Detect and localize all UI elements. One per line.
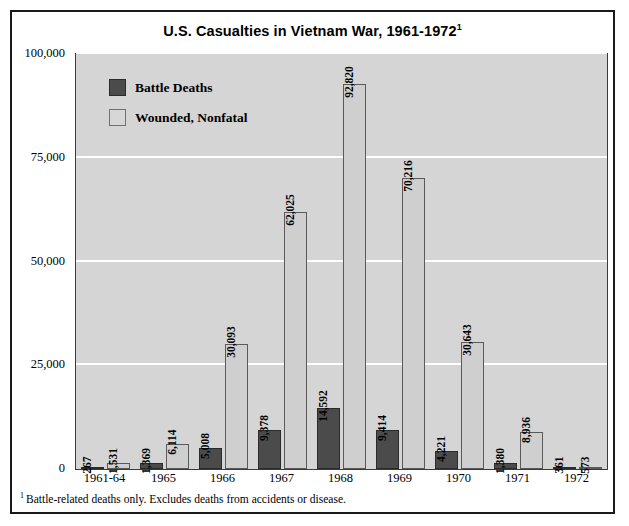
bar-value-label: 62,025 xyxy=(284,194,296,226)
bar-group: 9,37862,025 xyxy=(258,54,307,469)
bar-value-label: 30,093 xyxy=(225,326,237,358)
wounded-nonfatal-swatch-icon xyxy=(109,109,126,126)
bar-wounded-nonfatal[interactable]: 92,820 xyxy=(343,84,366,469)
x-axis-tick-label: 1968 xyxy=(328,471,353,486)
y-axis: 025,00050,00075,000100,000 xyxy=(12,53,73,468)
bar-wounded-nonfatal[interactable]: 30,093 xyxy=(225,344,248,469)
x-axis-tick-label: 1961-64 xyxy=(84,471,126,486)
bar-value-label: 8,936 xyxy=(520,417,532,443)
y-axis-tick-label: 75,000 xyxy=(7,149,73,164)
chart-title: U.S. Casualties in Vietnam War, 1961-197… xyxy=(12,22,613,39)
bar-battle-deaths[interactable]: 267 xyxy=(81,467,104,469)
bar-value-label: 70,216 xyxy=(402,160,414,192)
bar-value-label: 5,008 xyxy=(199,433,211,459)
bar-value-label: 9,414 xyxy=(376,415,388,441)
x-axis-tick-label: 1966 xyxy=(210,471,235,486)
legend-item-wounded-nonfatal: Wounded, Nonfatal xyxy=(109,109,248,126)
footnote-text: Battle-related deaths only. Excludes dea… xyxy=(26,493,346,505)
x-axis-tick-label: 1971 xyxy=(505,471,530,486)
bar-battle-deaths[interactable]: 5,008 xyxy=(199,448,222,469)
bar-battle-deaths[interactable]: 361 xyxy=(553,467,576,469)
chart-figure: U.S. Casualties in Vietnam War, 1961-197… xyxy=(10,10,615,514)
y-axis-tick-label: 100,000 xyxy=(7,46,73,61)
x-axis-tick-label: 1972 xyxy=(564,471,589,486)
bar-value-label: 14,592 xyxy=(317,391,329,423)
chart-title-text: U.S. Casualties in Vietnam War, 1961-197… xyxy=(163,23,456,39)
x-axis-tick-label: 1965 xyxy=(151,471,176,486)
battle-deaths-swatch-icon xyxy=(109,79,126,96)
footnote-marker: 1 xyxy=(20,491,24,500)
legend-item-battle-deaths: Battle Deaths xyxy=(109,79,248,96)
x-axis-tick-label: 1970 xyxy=(446,471,471,486)
bar-battle-deaths[interactable]: 1,369 xyxy=(140,463,163,469)
bar-group: 4,22130,643 xyxy=(435,54,484,469)
bar-battle-deaths[interactable]: 1,380 xyxy=(494,463,517,469)
bar-value-label: 30,643 xyxy=(461,324,473,356)
bar-wounded-nonfatal[interactable]: 62,025 xyxy=(284,212,307,469)
bar-value-label: 9,378 xyxy=(258,415,270,441)
bar-group: 14,59292,820 xyxy=(317,54,366,469)
bar-group: 361573 xyxy=(553,54,602,469)
legend-label-wounded-nonfatal: Wounded, Nonfatal xyxy=(135,110,248,126)
x-axis: 1961-6419651966196719681969197019711972 xyxy=(75,471,608,493)
bar-wounded-nonfatal[interactable]: 30,643 xyxy=(461,342,484,469)
chart-footnote: 1Battle-related deaths only. Excludes de… xyxy=(20,491,346,505)
bar-value-label: 1,531 xyxy=(107,448,119,474)
bar-wounded-nonfatal[interactable]: 573 xyxy=(579,467,602,469)
bar-group: 1,3808,936 xyxy=(494,54,543,469)
bar-group: 9,41470,216 xyxy=(376,54,425,469)
legend-label-battle-deaths: Battle Deaths xyxy=(135,80,213,96)
bar-value-label: 6,114 xyxy=(166,429,178,454)
x-axis-tick-label: 1969 xyxy=(387,471,412,486)
bar-wounded-nonfatal[interactable]: 8,936 xyxy=(520,432,543,469)
bar-wounded-nonfatal[interactable]: 6,114 xyxy=(166,444,189,469)
bar-battle-deaths[interactable]: 4,221 xyxy=(435,451,458,469)
bar-value-label: 4,221 xyxy=(435,437,447,463)
bar-battle-deaths[interactable]: 9,378 xyxy=(258,430,281,469)
chart-legend: Battle Deaths Wounded, Nonfatal xyxy=(109,79,248,139)
plot-area: 2671,5311,3696,1145,00830,0939,37862,025… xyxy=(75,53,608,470)
y-axis-tick-label: 50,000 xyxy=(7,253,73,268)
y-axis-tick-label: 25,000 xyxy=(7,357,73,372)
x-axis-tick-label: 1967 xyxy=(269,471,294,486)
y-axis-tick-label: 0 xyxy=(7,461,73,476)
bar-wounded-nonfatal[interactable]: 1,531 xyxy=(107,463,130,469)
bar-battle-deaths[interactable]: 9,414 xyxy=(376,430,399,469)
bar-value-label: 92,820 xyxy=(343,66,355,98)
chart-title-footnote-marker: 1 xyxy=(457,22,462,32)
bar-wounded-nonfatal[interactable]: 70,216 xyxy=(402,178,425,469)
bar-battle-deaths[interactable]: 14,592 xyxy=(317,408,340,469)
